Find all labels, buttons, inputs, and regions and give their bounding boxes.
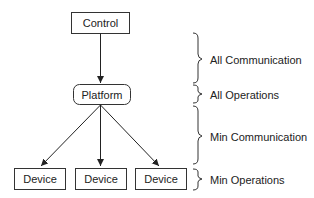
arrow-platform-device-1	[41, 105, 101, 166]
control-node: Control	[72, 13, 130, 34]
device-label-3: Device	[144, 173, 178, 185]
device-node-1: Device	[15, 169, 66, 190]
control-label: Control	[83, 17, 118, 29]
device-label-2: Device	[84, 173, 118, 185]
platform-node: Platform	[74, 85, 131, 105]
brace-min-operations	[193, 169, 202, 190]
brace-all-operations	[193, 85, 202, 103]
device-label-1: Device	[23, 173, 57, 185]
bracket-label-all-communication: All Communication	[210, 54, 302, 66]
arrow-platform-device-3	[101, 105, 160, 166]
bracket-label-min-communication: Min Communication	[210, 131, 307, 143]
bracket-label-min-operations: Min Operations	[210, 174, 285, 186]
platform-label: Platform	[82, 89, 123, 101]
diagram: Control Platform Device Device Device Al…	[0, 0, 314, 198]
device-node-3: Device	[136, 169, 187, 190]
brace-min-communication	[193, 106, 202, 164]
brace-all-communication	[193, 33, 202, 83]
bracket-label-all-operations: All Operations	[210, 89, 280, 101]
device-node-2: Device	[76, 169, 127, 190]
